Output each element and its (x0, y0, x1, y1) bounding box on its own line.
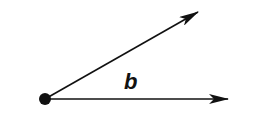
upper-ray (45, 12, 198, 99)
angle-label: b (124, 69, 137, 94)
angle-diagram: b (0, 0, 255, 113)
vertex-dot (39, 93, 51, 105)
